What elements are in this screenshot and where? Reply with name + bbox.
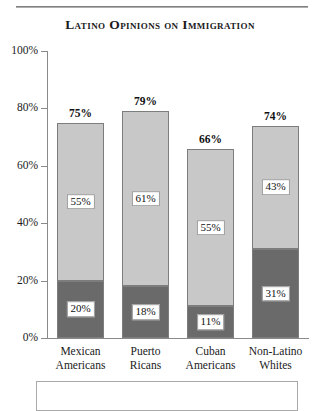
bar-total-label: 79% [122,95,169,107]
y-axis-tick-label: 100% [0,45,38,57]
bar-segment-lower-label: 11% [197,314,225,330]
bar-segment-lower-label: 31% [261,286,289,302]
y-axis-line [47,51,48,339]
y-axis-tick-label: 20% [0,275,38,287]
bar-segment-upper-label: 55% [196,220,224,236]
y-axis-tick [41,166,47,167]
y-axis-tick-label: 0% [0,332,38,344]
y-axis-tick [41,223,47,224]
y-axis-tick [41,281,47,282]
bar-total-label: 66% [187,133,234,145]
category-label-line: Whites [235,358,316,372]
y-axis-tick-label: 60% [0,160,38,172]
bar-segment-lower-label: 20% [66,301,94,317]
top-divider-rule [16,6,308,8]
bar-column [187,149,234,338]
y-axis-tick [41,338,47,339]
chart-title: Latino Opinions on Immigration [0,17,320,33]
bar-column [252,126,299,338]
bar-segment-lower-label: 18% [131,304,159,320]
bar-segment-upper-label: 55% [66,194,94,210]
category-label-line: Non-Latino [235,344,316,358]
bar-total-label: 75% [57,107,104,119]
y-axis-tick [41,51,47,52]
bar-segment-upper-label: 61% [131,191,159,207]
x-axis-baseline [41,338,309,339]
x-axis-category-label: Non-LatinoWhites [235,344,316,373]
bar-total-label: 74% [252,110,299,122]
y-axis-tick [41,108,47,109]
y-axis-tick-label: 80% [0,102,38,114]
bar-segment-upper-label: 43% [261,179,289,195]
y-axis-tick-label: 40% [0,217,38,229]
caption-frame [36,381,298,411]
